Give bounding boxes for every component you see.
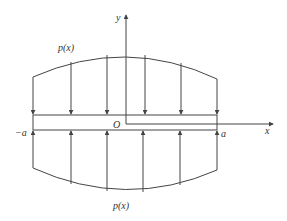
top-load-arrows [33,55,217,114]
left-end-label: −a [15,127,27,138]
load-label-top: p(x) [57,42,75,54]
plate-load-diagram: p(x) p(x) y x O −a a [0,0,287,221]
bottom-load-arrows [33,131,217,192]
x-axis-label: x [264,125,270,136]
plate [33,115,217,130]
load-label-bottom: p(x) [112,200,130,212]
origin-label: O [113,119,120,130]
right-end-label: a [221,128,226,139]
bottom-load-curve [33,168,217,190]
top-load-curve [33,57,217,79]
y-axis-label: y [115,12,121,23]
